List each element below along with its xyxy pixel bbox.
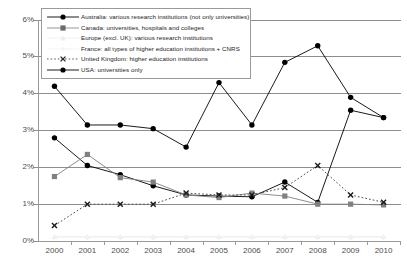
legend-marker-circle-icon — [45, 12, 81, 22]
x-tick-2003 — [170, 241, 171, 245]
y-axis-label-4: 4% — [10, 88, 34, 97]
line-chart: 6% 5% 4% 3% 2% 1% 0% 2000200120022003200… — [0, 0, 407, 272]
x-tick-2009 — [367, 241, 368, 245]
legend-marker-x-icon — [45, 54, 81, 64]
x-tick-2010 — [400, 241, 401, 245]
legend-label-france: France: all types of higher education in… — [81, 44, 240, 54]
legend-label-europe: Europe (excl. UK): various research inst… — [81, 33, 213, 43]
x-tick-2006 — [268, 241, 269, 245]
y-axis-label-1: 1% — [10, 199, 34, 208]
gridline-2 — [39, 167, 401, 168]
x-tick-2008 — [334, 241, 335, 245]
y-axis-label-5: 5% — [10, 51, 34, 60]
y-axis-label-6: 6% — [10, 15, 34, 24]
legend-marker-circle-usa-icon — [45, 65, 81, 75]
y-axis-label-2: 2% — [10, 162, 34, 171]
legend-marker-triangle-icon — [45, 33, 81, 43]
legend-label-united-kingdom: United Kingdom: higher education institu… — [81, 54, 208, 64]
x-tick-2007 — [301, 241, 302, 245]
legend-item-france: France: all types of higher education in… — [45, 44, 246, 55]
legend-label-usa: USA: universities only — [81, 65, 143, 75]
legend-item-united-kingdom: United Kingdom: higher education institu… — [45, 54, 246, 65]
x-tick-2000 — [71, 241, 72, 245]
legend-marker-cross-icon — [45, 44, 81, 54]
x-tick-2004 — [203, 241, 204, 245]
x-tick-2001 — [104, 241, 105, 245]
gridline-3 — [39, 130, 401, 131]
y-axis-label-3: 3% — [10, 125, 34, 134]
legend-label-australia: Australia: various research institutions… — [81, 12, 249, 22]
x-tick-2002 — [137, 241, 138, 245]
legend-item-europe: Europe (excl. UK): various research inst… — [45, 33, 246, 44]
y-axis-label-0: 0% — [10, 236, 34, 245]
legend-marker-square-icon — [45, 23, 81, 33]
legend-item-australia: Australia: various research institutions… — [45, 12, 246, 23]
x-axis-label-2010: 2010 — [364, 246, 404, 255]
legend-item-usa: USA: universities only — [45, 65, 246, 76]
legend-item-canada: Canada: universities, hospitals and coll… — [45, 23, 246, 34]
chart-legend: Australia: various research institutions… — [41, 8, 251, 79]
gridline-1 — [39, 204, 401, 205]
x-tick-2005 — [235, 241, 236, 245]
legend-label-canada: Canada: universities, hospitals and coll… — [81, 23, 204, 33]
gridline-4 — [39, 93, 401, 94]
